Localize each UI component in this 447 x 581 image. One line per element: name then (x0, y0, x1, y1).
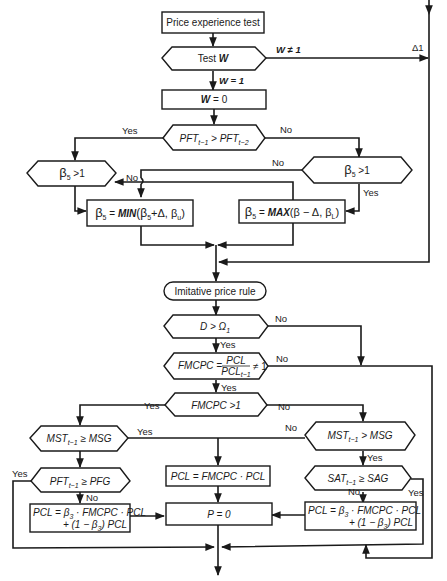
edge-beta-right-yes (346, 184, 359, 211)
node-beta-right-label: β5 >1 (344, 162, 370, 178)
label-w-eq-1: W = 1 (219, 75, 244, 86)
edge-pft-no (265, 138, 359, 157)
edge-min-join (141, 226, 214, 245)
node-pcl-mult: PCL = FMCPC · PCL (166, 466, 270, 486)
label-beta-right-yes: Yes (363, 187, 379, 198)
node-mst-gt-msg: MSTt−1 > MSG (305, 422, 415, 450)
node-beta-max: β5 = MAX(β − Δ, βL) (239, 200, 345, 223)
label-mst-yes: Yes (137, 426, 153, 437)
edge-crossover-jump (141, 178, 143, 184)
label-ratio-no: No (276, 353, 288, 364)
label-mst2-yes: Yes (367, 452, 383, 463)
node-fmcpc-gt1-label: FMCPC >1 (191, 400, 241, 411)
label-d-yes: Yes (220, 339, 236, 350)
label-w-ne-1: W ≠ 1 (276, 44, 301, 55)
node-fmcpc-ratio: FMCPC = PCL PCLt−1 ≠ 1 (164, 353, 268, 379)
node-fmcpc-gt1: FMCPC >1 (165, 393, 267, 416)
node-imitative: Imitative price rule (164, 282, 266, 300)
label-sag-no: No (348, 486, 360, 497)
label-fgt1-yes: Yes (144, 400, 160, 411)
edge-pft-yes (75, 138, 163, 160)
label-d-no: No (275, 313, 287, 324)
node-pcl-right: PCL = β3 · FMCPC · PCL + (1 − β3) PCL (305, 502, 421, 530)
node-beta-min-label: β5 = MIN(β5+Δ, βu) (95, 205, 185, 221)
node-fmcpc-ratio-num: PCL (226, 355, 245, 366)
edge-beta-right-no (141, 170, 302, 178)
node-fmcpc-ratio-lhs: FMCPC = (178, 360, 222, 371)
node-beta-left: β5 >1 (27, 161, 116, 186)
label-beta-left-no: No (126, 172, 138, 183)
label-pfg-yes: Yes (12, 468, 28, 479)
node-mst-ge-msg: MSTt−1 ≥ MSG (30, 426, 128, 451)
node-w-zero: W = 0 (162, 90, 266, 109)
flowchart: Price experience test Test W W = 0 PFTt−… (0, 0, 447, 581)
node-beta-right: β5 >1 (302, 157, 412, 183)
node-test-w-label: Test W (198, 53, 230, 64)
label-fgt1-no: No (278, 401, 290, 412)
node-imitative-label: Imitative price rule (174, 286, 256, 297)
edge-beta-left-yes (75, 186, 86, 211)
node-pft-compare: PFTt−1 > PFTt−2 (163, 125, 265, 150)
node-fmcpc-ratio-ne: ≠ 1 (253, 361, 267, 372)
label-pft-no: No (280, 124, 292, 135)
label-ratio-yes: Yes (221, 382, 237, 393)
label-beta-right-no: No (272, 157, 284, 168)
node-pcl-left: PCL = β3 · FMCPC · PCL + (1 − β3) PCL (30, 504, 146, 532)
node-beta-max-label: β5 = MAX(β − Δ, βL) (245, 204, 339, 220)
edge-max-join (218, 222, 293, 245)
label-delta1: Δ1 (412, 42, 424, 53)
node-p-zero-label: P = 0 (207, 509, 231, 520)
node-w-zero-label: W = 0 (201, 94, 228, 105)
node-test-w: Test W (162, 47, 266, 70)
label-pft-yes: Yes (122, 125, 138, 136)
node-pft-ge-pfg: PFTt−1 ≥ PFG (31, 468, 130, 492)
label-sag-yes: Yes (408, 487, 424, 498)
node-start-label: Price experience test (166, 17, 260, 28)
label-pfg-no: No (86, 492, 98, 503)
node-beta-min: β5 = MIN(β5+Δ, βu) (87, 200, 193, 226)
label-mst2-no: No (285, 422, 297, 433)
node-beta-left-label: β5 >1 (59, 165, 85, 181)
node-p-zero: P = 0 (166, 503, 272, 525)
node-start: Price experience test (162, 12, 264, 33)
node-d-omega: D > Ω1 (164, 315, 268, 338)
node-pcl-mult-label: PCL = FMCPC · PCL (171, 471, 266, 482)
